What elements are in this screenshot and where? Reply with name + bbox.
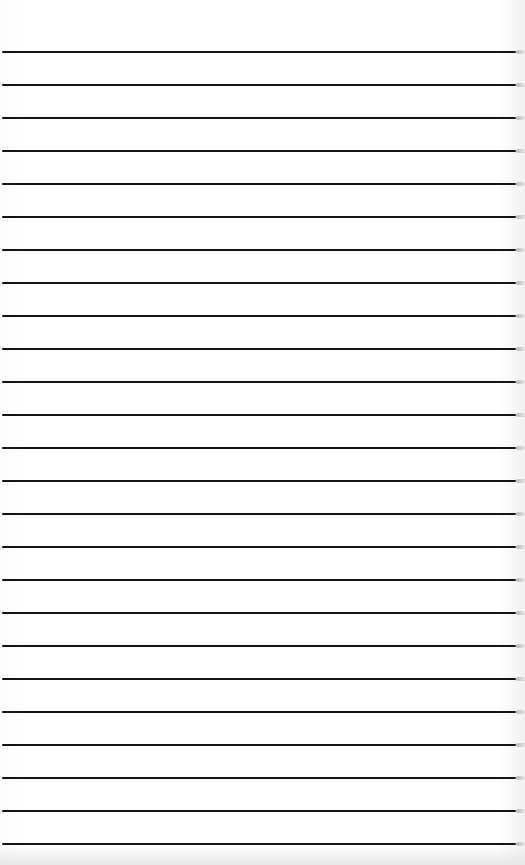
ruled-line <box>2 546 516 548</box>
paper-edge-mark <box>516 50 525 54</box>
ruled-line <box>2 711 516 713</box>
paper-edge-mark <box>516 512 525 516</box>
ruled-line <box>2 579 516 581</box>
ruled-line <box>2 282 516 284</box>
paper-edge-mark <box>516 776 525 780</box>
ruled-line <box>2 348 516 350</box>
ruled-line <box>2 414 516 416</box>
paper-edge-mark <box>516 83 525 87</box>
ruled-line <box>2 216 516 218</box>
paper-edge-mark <box>516 149 525 153</box>
paper-edge-mark <box>516 710 525 714</box>
paper-edge-mark <box>516 644 525 648</box>
paper-edge-mark <box>516 479 525 483</box>
ruled-line <box>2 678 516 680</box>
paper-edge-mark <box>516 347 525 351</box>
paper-edge-mark <box>516 215 525 219</box>
ruled-line <box>2 447 516 449</box>
paper-edge-mark <box>516 677 525 681</box>
ruled-line <box>2 744 516 746</box>
paper-edge-mark <box>516 446 525 450</box>
ruled-line <box>2 315 516 317</box>
paper-bottom-shadow <box>0 845 525 865</box>
paper-edge-mark <box>516 281 525 285</box>
ruled-line <box>2 480 516 482</box>
paper-edge-mark <box>516 380 525 384</box>
paper-edge-mark <box>516 611 525 615</box>
ruled-line <box>2 183 516 185</box>
ruled-line <box>2 249 516 251</box>
ruled-line <box>2 810 516 812</box>
paper-edge-mark <box>516 545 525 549</box>
ruled-line <box>2 645 516 647</box>
ruled-line <box>2 381 516 383</box>
ruled-line <box>2 51 516 53</box>
ruled-line <box>2 513 516 515</box>
paper-edge-mark <box>516 809 525 813</box>
paper-sheet <box>0 0 525 865</box>
ruled-line <box>2 612 516 614</box>
paper-edge-mark <box>516 578 525 582</box>
paper-edge-mark <box>516 743 525 747</box>
ruled-line <box>2 84 516 86</box>
ruled-line <box>2 150 516 152</box>
paper-edge-mark <box>516 314 525 318</box>
paper-edge-mark <box>516 182 525 186</box>
paper-edge-mark <box>516 413 525 417</box>
paper-edge-mark <box>516 116 525 120</box>
ruled-line <box>2 117 516 119</box>
paper-edge-mark <box>516 248 525 252</box>
ruled-line <box>2 777 516 779</box>
